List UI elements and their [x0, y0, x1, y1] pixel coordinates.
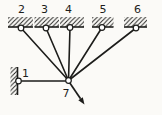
pin-1 [16, 78, 22, 84]
force-arrow [69, 81, 85, 105]
rod-6-7 [69, 28, 137, 81]
pin-7 [66, 78, 72, 84]
node-label-3: 3 [41, 3, 48, 16]
rod-3-7 [46, 28, 69, 81]
pin-3 [43, 25, 49, 31]
statics-diagram: 2345617 [0, 0, 162, 115]
diagram-canvas: 2345617 [0, 0, 162, 115]
node-label-6: 6 [134, 3, 141, 16]
node-label-4: 4 [65, 3, 72, 16]
pin-5 [99, 25, 105, 31]
pin-2 [18, 25, 24, 31]
force-shaft [69, 81, 81, 99]
node-label-1: 1 [22, 67, 29, 80]
node-label-7: 7 [63, 87, 70, 100]
rod-4-7 [69, 28, 71, 81]
pin-6 [133, 25, 139, 31]
node-label-5: 5 [100, 3, 107, 16]
node-label-2: 2 [18, 3, 25, 16]
rod-5-7 [69, 28, 103, 81]
pin-4 [67, 25, 73, 31]
